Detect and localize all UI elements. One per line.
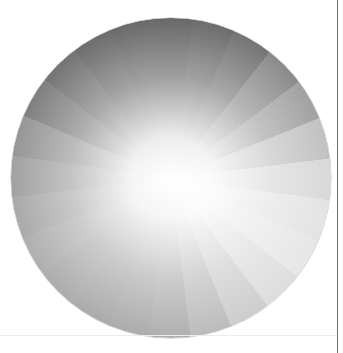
panel-divider (337, 0, 338, 353)
bottom-divider (0, 335, 337, 336)
color-wheel-saturation-overlay (11, 18, 331, 338)
color-wheel[interactable] (11, 18, 331, 338)
